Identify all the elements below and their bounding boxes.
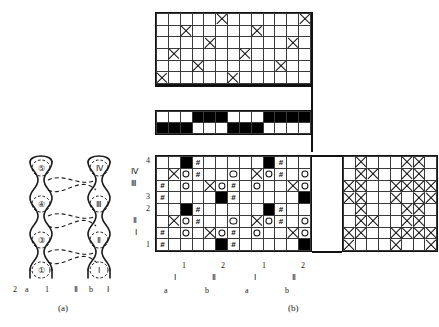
grid-cell[interactable] [402,180,414,192]
grid-cell[interactable] [355,204,367,216]
grid-cell[interactable] [204,37,216,49]
grid-cell[interactable] [192,48,204,60]
grid-cell[interactable] [402,204,414,216]
grid-cell[interactable] [228,123,240,134]
grid-cell[interactable] [251,157,263,169]
grid-cell[interactable] [228,168,240,180]
grid-cell[interactable] [251,180,263,192]
grid-cell[interactable] [299,239,311,251]
grid-cell[interactable] [263,123,275,134]
grid-cell[interactable] [168,112,180,123]
grid-cell[interactable] [355,157,367,169]
grid-cell[interactable] [192,14,204,26]
grid-cell[interactable] [425,215,437,227]
grid-cell[interactable] [192,192,204,204]
grid-cell[interactable]: # [275,204,287,216]
grid-cell[interactable] [367,215,379,227]
grid-cell[interactable] [251,72,263,84]
grid-cell[interactable] [299,60,311,72]
grid-cell[interactable] [180,60,192,72]
grid-cell[interactable] [378,168,390,180]
grid-cell[interactable] [180,112,192,123]
grid-cell[interactable]: # [192,157,204,169]
grid-cell[interactable] [402,168,414,180]
grid-cell[interactable] [239,123,251,134]
grid-cell[interactable] [239,204,251,216]
grid-cell[interactable] [239,215,251,227]
grid-cell[interactable] [263,72,275,84]
grid-cell[interactable] [204,239,216,251]
grid-cell[interactable] [425,204,437,216]
grid-cell[interactable] [204,180,216,192]
grid-cell[interactable] [425,157,437,169]
grid-cell[interactable] [192,180,204,192]
grid-cell[interactable] [344,204,356,216]
grid-cell[interactable] [204,215,216,227]
grid-cell[interactable] [239,157,251,169]
grid-cell[interactable] [344,215,356,227]
grid-cell[interactable] [263,112,275,123]
grid-cell[interactable]: # [228,227,240,239]
grid-cell[interactable] [157,37,169,49]
grid-cell[interactable] [287,239,299,251]
grid-cell[interactable] [204,72,216,84]
grid-cell[interactable] [425,239,437,251]
grid-cell[interactable] [251,192,263,204]
grid-cell[interactable] [263,14,275,26]
grid-cell[interactable] [239,239,251,251]
grid-cell[interactable] [216,227,228,239]
grid-cell[interactable] [228,204,240,216]
grid-cell[interactable] [390,192,402,204]
grid-cell[interactable] [299,112,311,123]
grid-cell[interactable] [299,48,311,60]
grid-cell[interactable] [239,168,251,180]
grid-cell[interactable] [402,157,414,169]
grid-cell[interactable] [239,25,251,37]
grid-cell[interactable] [425,192,437,204]
grid-cell[interactable] [390,227,402,239]
grid-cell[interactable] [299,123,311,134]
grid-cell[interactable] [180,168,192,180]
grid-cell[interactable] [192,239,204,251]
grid-cell[interactable] [251,48,263,60]
grid-cell[interactable] [251,239,263,251]
grid-cell[interactable] [192,72,204,84]
grid-cell[interactable] [228,14,240,26]
grid-cell[interactable] [299,14,311,26]
grid-cell[interactable] [263,215,275,227]
grid-cell[interactable] [299,168,311,180]
grid-cell[interactable] [168,72,180,84]
grid-cell[interactable] [263,25,275,37]
grid-cell[interactable] [275,60,287,72]
grid-cell[interactable] [228,60,240,72]
grid-cell[interactable] [390,180,402,192]
grid-cell[interactable] [299,180,311,192]
grid-cell[interactable] [228,48,240,60]
grid-cell[interactable] [251,25,263,37]
grid-cell[interactable] [299,227,311,239]
grid-cell[interactable] [216,204,228,216]
grid-cell[interactable]: # [157,227,169,239]
grid-cell[interactable] [251,14,263,26]
grid-cell[interactable] [390,239,402,251]
grid-cell[interactable]: # [192,204,204,216]
grid-cell[interactable] [299,25,311,37]
grid-cell[interactable] [263,60,275,72]
grid-cell[interactable] [228,72,240,84]
grid-cell[interactable] [263,48,275,60]
grid-cell[interactable] [204,168,216,180]
grid-cell[interactable] [287,227,299,239]
grid-cell[interactable] [168,180,180,192]
grid-cell[interactable] [216,112,228,123]
grid-cell[interactable] [413,239,425,251]
grid-cell[interactable]: # [192,215,204,227]
grid-cell[interactable]: # [157,180,169,192]
grid-cell[interactable] [402,192,414,204]
grid-cell[interactable] [355,168,367,180]
grid-cell[interactable] [168,60,180,72]
grid-cell[interactable] [228,215,240,227]
grid-cell[interactable] [204,123,216,134]
tie-up-band-grid[interactable] [155,110,312,135]
grid-cell[interactable] [263,204,275,216]
grid-cell[interactable] [263,168,275,180]
